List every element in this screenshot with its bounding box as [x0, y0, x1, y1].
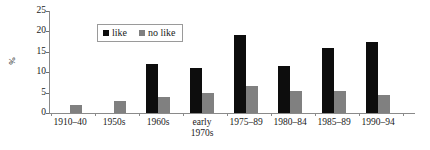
x-axis-label-line1: 1960s: [136, 117, 180, 128]
bar-like: [278, 66, 290, 113]
y-axis-tick-labels: 0510152025: [22, 0, 46, 150]
x-axis-tick-mark: [403, 113, 404, 116]
bar-group: [366, 11, 390, 113]
bar-like: [146, 64, 158, 113]
x-axis-label-line1: 1975–89: [224, 117, 268, 128]
bar-no-like: [334, 91, 346, 113]
x-axis-tick-mark: [359, 113, 360, 116]
x-axis-label-3: early1970s: [180, 117, 224, 139]
bar-group: [234, 11, 258, 113]
bar-no-like: [378, 95, 390, 113]
legend-label: like: [112, 27, 127, 38]
legend-swatch-icon: [103, 30, 109, 36]
legend-item-no-like: no like: [139, 27, 176, 38]
bar-group: [190, 11, 214, 113]
bar-no-like: [158, 97, 170, 113]
y-axis-tick-15: 15: [24, 47, 46, 57]
x-axis-tick-mark: [51, 113, 52, 116]
x-axis-label-5: 1980–84: [268, 117, 312, 128]
bar-no-like: [114, 101, 126, 113]
bar-group: [322, 11, 346, 113]
x-axis-label-line2: 1970s: [180, 128, 224, 139]
bar-no-like: [202, 93, 214, 113]
x-axis-line: [49, 113, 415, 114]
x-axis-label-1: 1950s: [92, 117, 136, 128]
bar-no-like: [246, 86, 258, 113]
x-axis-tick-mark: [95, 113, 96, 116]
x-axis-tick-mark: [183, 113, 184, 116]
x-axis-label-line1: 1910–40: [48, 117, 92, 128]
x-axis-tick-mark: [227, 113, 228, 116]
bar-chart: % 0510152025 1910–401950s1960searly1970s…: [0, 0, 430, 150]
x-axis-label-6: 1985–89: [312, 117, 356, 128]
x-axis-tick-mark: [315, 113, 316, 116]
x-axis-label-line1: 1950s: [92, 117, 136, 128]
bar-like: [366, 42, 378, 113]
bar-like: [234, 35, 246, 113]
x-axis-tick-mark: [139, 113, 140, 116]
y-axis-tick-10: 10: [24, 67, 46, 77]
y-axis-title: %: [7, 57, 17, 65]
legend-swatch-icon: [139, 30, 145, 36]
x-axis-label-4: 1975–89: [224, 117, 268, 128]
legend-item-like: like: [103, 27, 127, 38]
bar-group: [278, 11, 302, 113]
legend-label: no like: [148, 27, 176, 38]
x-axis-label-line1: early: [180, 117, 224, 128]
x-axis-label-line1: 1985–89: [312, 117, 356, 128]
x-axis-tick-mark: [271, 113, 272, 116]
bar-group: [58, 11, 82, 113]
x-axis-label-7: 1990–94: [356, 117, 400, 128]
bar-no-like: [70, 105, 82, 113]
x-axis-label-line1: 1980–84: [268, 117, 312, 128]
bar-like: [322, 48, 334, 113]
x-axis-label-0: 1910–40: [48, 117, 92, 128]
bar-like: [190, 68, 202, 113]
y-axis-tick-5: 5: [24, 88, 46, 98]
x-axis-label-2: 1960s: [136, 117, 180, 128]
legend: likeno like: [97, 24, 183, 42]
x-axis-label-line1: 1990–94: [356, 117, 400, 128]
y-axis-tick-20: 20: [24, 26, 46, 36]
y-axis-tick-0: 0: [24, 108, 46, 118]
bar-no-like: [290, 91, 302, 113]
y-axis-tick-25: 25: [24, 6, 46, 16]
